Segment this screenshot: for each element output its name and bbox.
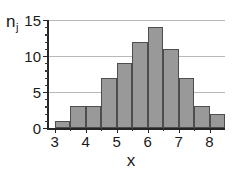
x-axis-line bbox=[47, 128, 225, 130]
y-tick-label-5: 5 bbox=[33, 85, 41, 100]
histogram-chart: nj 051015 345678 x bbox=[0, 0, 242, 175]
y-tick-minor-7 bbox=[45, 78, 48, 79]
y-tick-label-10: 10 bbox=[24, 49, 41, 64]
x-axis-label: x bbox=[0, 152, 242, 169]
y-axis-label-text: n bbox=[6, 12, 15, 31]
bar bbox=[101, 78, 116, 128]
bar bbox=[194, 106, 209, 128]
bar bbox=[55, 121, 70, 128]
bar bbox=[163, 49, 178, 128]
x-tick-label-4: 4 bbox=[82, 134, 90, 149]
y-tick-10 bbox=[43, 56, 48, 57]
y-tick-minor-2 bbox=[45, 114, 48, 115]
y-tick-minor-14 bbox=[45, 27, 48, 28]
y-axis-line bbox=[47, 20, 49, 128]
y-axis-label: nj bbox=[6, 13, 18, 33]
bar bbox=[70, 106, 85, 128]
y-tick-0 bbox=[43, 128, 48, 129]
y-tick-minor-6 bbox=[45, 85, 48, 86]
gridline-y-15 bbox=[47, 20, 225, 21]
y-tick-label-0: 0 bbox=[33, 121, 41, 136]
x-tick-minor-3.5 bbox=[70, 128, 71, 131]
x-tick-minor-6.5 bbox=[163, 128, 164, 131]
plot-area: 051015 345678 bbox=[47, 20, 225, 128]
x-tick-minor-7.5 bbox=[194, 128, 195, 131]
y-tick-minor-11 bbox=[45, 49, 48, 50]
y-tick-minor-1 bbox=[45, 121, 48, 122]
y-tick-15 bbox=[43, 20, 48, 21]
y-tick-minor-8 bbox=[45, 70, 48, 71]
x-tick-label-8: 8 bbox=[205, 134, 213, 149]
bar bbox=[179, 78, 194, 128]
x-tick-label-3: 3 bbox=[51, 134, 59, 149]
y-axis-label-subscript: j bbox=[16, 21, 18, 33]
bar bbox=[132, 42, 147, 128]
x-tick-minor-4.5 bbox=[101, 128, 102, 131]
y-tick-minor-9 bbox=[45, 63, 48, 64]
y-tick-minor-4 bbox=[45, 99, 48, 100]
y-tick-minor-3 bbox=[45, 106, 48, 107]
y-tick-label-15: 15 bbox=[24, 13, 41, 28]
bar bbox=[86, 106, 101, 128]
y-tick-minor-12 bbox=[45, 42, 48, 43]
bar bbox=[210, 114, 225, 128]
x-tick-minor-5.5 bbox=[132, 128, 133, 131]
x-tick-label-6: 6 bbox=[143, 134, 151, 149]
bar bbox=[117, 63, 132, 128]
bar bbox=[148, 27, 163, 128]
y-tick-minor-13 bbox=[45, 34, 48, 35]
x-tick-label-7: 7 bbox=[174, 134, 182, 149]
x-axis-label-text: x bbox=[127, 151, 136, 170]
y-tick-5 bbox=[43, 92, 48, 93]
x-tick-label-5: 5 bbox=[112, 134, 120, 149]
